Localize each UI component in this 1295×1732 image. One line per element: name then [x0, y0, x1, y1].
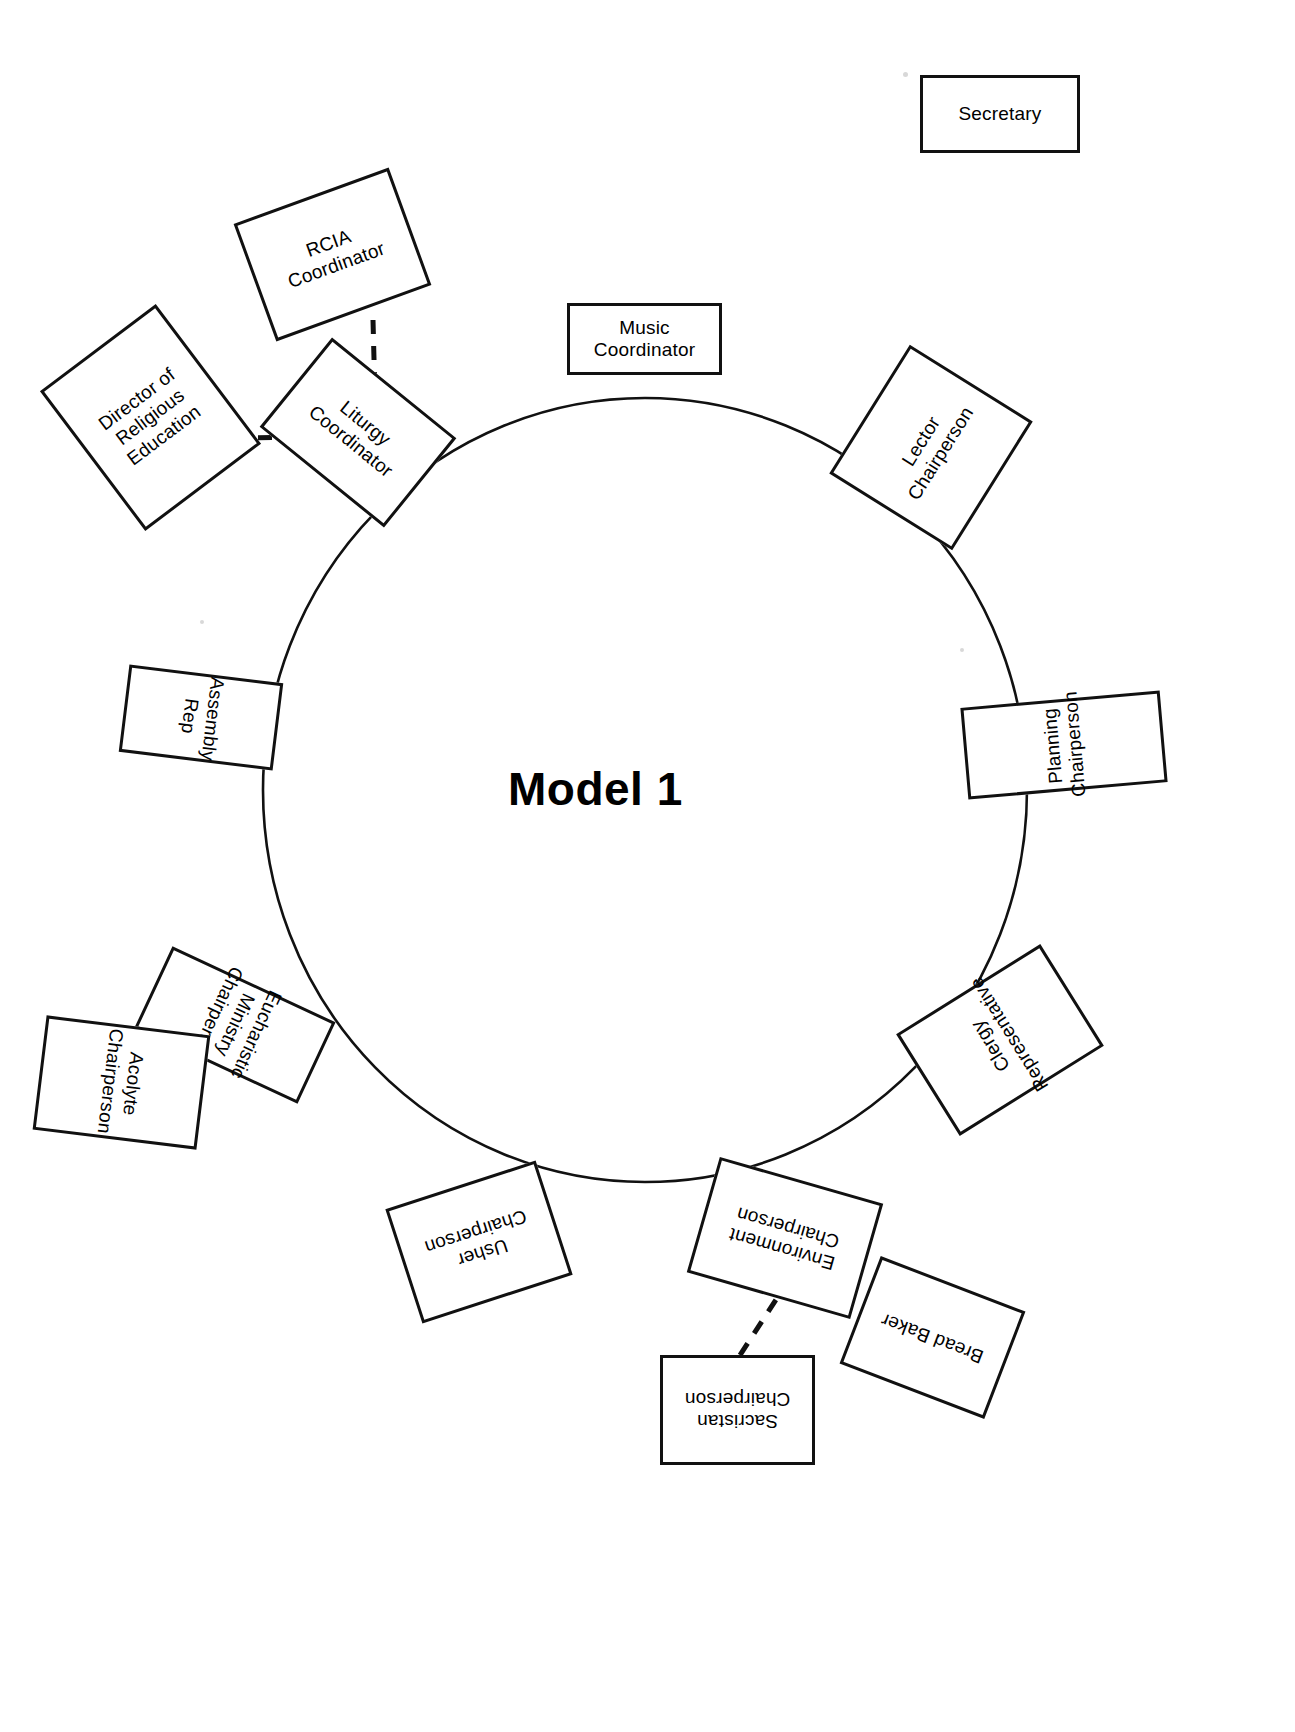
scan-speck [200, 620, 204, 624]
scan-speck [903, 72, 908, 77]
node-lector-chairperson[interactable]: Lector Chairperson [829, 345, 1033, 551]
node-usher-chairperson[interactable]: Usher Chairperson [385, 1161, 572, 1324]
connector-layer [0, 0, 1295, 1732]
node-acolyte-chairperson[interactable]: Acolyte Chairperson [33, 1015, 211, 1149]
scan-speck [960, 648, 964, 652]
node-director-of-religious-education[interactable]: Director of Religious Education [40, 304, 261, 531]
node-rcia-coordinator[interactable]: RCIA Coordinator [234, 168, 432, 342]
node-sacristan-chairperson[interactable]: Sacristan Chairperson [660, 1355, 815, 1465]
node-clergy-representative[interactable]: Clergy Representative [896, 944, 1104, 1136]
diagram-title: Model 1 [508, 762, 683, 816]
node-assembly-rep[interactable]: Assembly Rep [119, 664, 284, 770]
node-music-coordinator[interactable]: Music Coordinator [567, 303, 722, 375]
node-planning-chairperson[interactable]: Planning Chairperson [960, 690, 1167, 799]
node-liturgy-coordinator[interactable]: Liturgy Coordinator [260, 337, 457, 527]
node-bread-baker[interactable]: Bread Baker [840, 1256, 1026, 1419]
node-environment-chairperson[interactable]: Environment Chairperson [687, 1157, 883, 1319]
diagram-canvas: Model 1 Secretary Music Coordinator Lect… [0, 0, 1295, 1732]
node-secretary[interactable]: Secretary [920, 75, 1080, 153]
